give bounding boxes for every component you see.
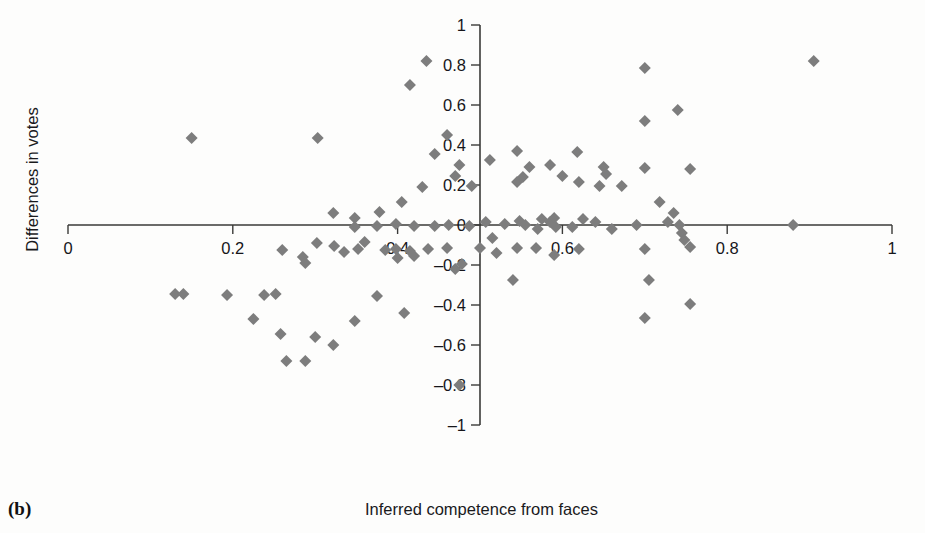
data-point <box>453 159 465 171</box>
data-point <box>684 163 696 175</box>
data-point <box>404 79 416 91</box>
data-point <box>639 243 651 255</box>
data-point <box>327 339 339 351</box>
data-point <box>416 181 428 193</box>
data-point <box>530 242 542 254</box>
x-tick-label: 1 <box>887 239 896 257</box>
data-point <box>639 162 651 174</box>
data-point <box>390 218 402 230</box>
data-point <box>408 220 420 232</box>
data-point <box>616 180 628 192</box>
figure-panel: 00.20.40.60.81–1–0.8–0.6–0.4–0.200.20.40… <box>0 0 925 533</box>
y-tick-label: 1 <box>457 16 466 34</box>
data-point <box>573 176 585 188</box>
data-point <box>312 132 324 144</box>
data-point <box>328 240 340 252</box>
data-point <box>639 312 651 324</box>
data-point <box>490 247 502 259</box>
data-point <box>373 206 385 218</box>
data-point <box>338 246 350 258</box>
data-point <box>573 243 585 255</box>
data-point <box>396 196 408 208</box>
data-point <box>443 219 455 231</box>
y-tick-label: –0.6 <box>434 336 466 354</box>
data-point <box>420 55 432 67</box>
data-point <box>270 288 282 300</box>
data-point <box>186 132 198 144</box>
data-point <box>486 232 498 244</box>
data-point <box>349 315 361 327</box>
data-point <box>571 146 583 158</box>
data-point <box>441 242 453 254</box>
data-point <box>499 218 511 230</box>
x-tick-label: 0.8 <box>716 239 739 257</box>
y-tick-label: –1 <box>448 416 466 434</box>
panel-label: (b) <box>8 498 31 520</box>
data-point <box>484 154 496 166</box>
data-point <box>672 104 684 116</box>
data-point <box>523 161 535 173</box>
data-point <box>577 213 589 225</box>
data-point <box>593 180 605 192</box>
data-point <box>247 313 259 325</box>
data-point <box>544 159 556 171</box>
y-tick-label: –0.4 <box>434 296 466 314</box>
data-point <box>643 274 655 286</box>
data-point <box>654 196 666 208</box>
data-point <box>311 237 323 249</box>
data-point <box>566 221 578 233</box>
data-point <box>631 219 643 231</box>
data-point <box>662 216 674 228</box>
data-point <box>429 148 441 160</box>
x-tick-label: 0 <box>63 239 72 257</box>
axes-group: 00.20.40.60.81–1–0.8–0.6–0.4–0.200.20.40… <box>63 16 896 434</box>
data-point <box>787 219 799 231</box>
y-tick-label: 0.6 <box>443 96 466 114</box>
data-point <box>639 115 651 127</box>
data-point <box>177 288 189 300</box>
data-point <box>280 355 292 367</box>
data-point <box>668 207 680 219</box>
data-point <box>684 298 696 310</box>
x-tick-label: 0.2 <box>221 239 244 257</box>
data-point <box>466 180 478 192</box>
data-point <box>474 242 486 254</box>
data-point <box>511 145 523 157</box>
data-point <box>422 243 434 255</box>
data-point <box>507 274 519 286</box>
data-point <box>808 55 820 67</box>
data-point <box>276 244 288 256</box>
data-point <box>275 328 287 340</box>
scatter-plot: 00.20.40.60.81–1–0.8–0.6–0.4–0.200.20.40… <box>0 0 925 533</box>
data-point <box>309 331 321 343</box>
data-points-group <box>169 55 820 391</box>
data-point <box>371 290 383 302</box>
data-point <box>480 216 492 228</box>
data-point <box>371 220 383 232</box>
data-point <box>639 62 651 74</box>
x-axis-label: Inferred competence from faces <box>365 500 598 519</box>
data-point <box>258 289 270 301</box>
y-axis-label: Differences in votes <box>23 85 42 275</box>
data-point <box>299 355 311 367</box>
data-point <box>349 221 361 233</box>
data-point <box>398 307 410 319</box>
data-point <box>429 220 441 232</box>
data-point <box>589 216 601 228</box>
data-point <box>511 242 523 254</box>
data-point <box>327 207 339 219</box>
data-point <box>221 289 233 301</box>
y-tick-label: 0.8 <box>443 56 466 74</box>
data-point <box>556 170 568 182</box>
